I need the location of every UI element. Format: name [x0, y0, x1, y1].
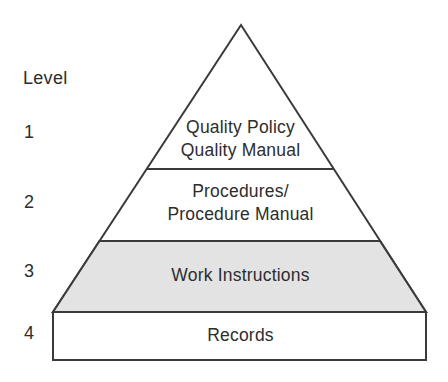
- level-2-label-line1: Procedures/: [40, 180, 441, 203]
- level-number-2: 2: [24, 192, 34, 213]
- level-1-label-line2: Quality Manual: [40, 139, 441, 162]
- level-axis-label: Level: [23, 68, 68, 89]
- level-2-label: Procedures/ Procedure Manual: [40, 180, 441, 226]
- level-2-label-line2: Procedure Manual: [40, 203, 441, 226]
- level-number-4: 4: [24, 323, 34, 344]
- level-3-label-line1: Work Instructions: [40, 264, 441, 287]
- level-1-label-line1: Quality Policy: [40, 116, 441, 139]
- level-number-3: 3: [24, 261, 34, 282]
- level-4-label-line1: Records: [40, 324, 441, 347]
- pyramid-diagram: Level 1 2 3 4 Quality Policy Quality Man…: [0, 0, 448, 382]
- level-number-1: 1: [24, 122, 34, 143]
- level-3-label: Work Instructions: [40, 264, 441, 287]
- level-4-label: Records: [40, 324, 441, 347]
- level-1-label: Quality Policy Quality Manual: [40, 116, 441, 162]
